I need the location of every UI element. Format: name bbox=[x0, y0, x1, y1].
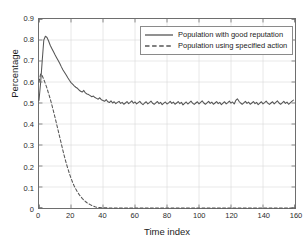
y-axis-title: Percentage bbox=[9, 14, 20, 134]
x-tick-label: 160 bbox=[290, 211, 303, 220]
y-tick-label: 0.8 bbox=[24, 35, 34, 44]
y-tick-label: 0.1 bbox=[24, 183, 34, 192]
y-tick-label: 0.2 bbox=[24, 162, 34, 171]
x-tick-label: 120 bbox=[225, 211, 238, 220]
legend-entry-specified-action: Population using specified action bbox=[144, 40, 289, 51]
legend-label-good-reputation: Population with good reputation bbox=[178, 30, 283, 40]
chart-figure: 00.10.20.30.40.50.60.70.80.9 02040608010… bbox=[0, 0, 307, 249]
y-tick-label: 0.6 bbox=[24, 77, 34, 86]
x-tick-label: 20 bbox=[66, 211, 74, 220]
y-tick-label: 0.5 bbox=[24, 98, 34, 107]
y-tick-label: 0.4 bbox=[24, 120, 34, 129]
x-axis-tick-labels: 020406080100120140160 bbox=[38, 211, 296, 223]
legend-sample-solid-line bbox=[144, 30, 174, 40]
y-tick-label: 0.3 bbox=[24, 141, 34, 150]
x-tick-label: 0 bbox=[36, 211, 40, 220]
x-tick-label: 80 bbox=[163, 211, 171, 220]
y-tick-label: 0.7 bbox=[24, 56, 34, 65]
chart-legend: Population with good reputation Populati… bbox=[140, 26, 293, 55]
x-tick-label: 40 bbox=[98, 211, 106, 220]
x-tick-label: 100 bbox=[193, 211, 206, 220]
y-tick-label: 0 bbox=[30, 205, 34, 214]
x-axis-title: Time index bbox=[38, 226, 296, 237]
legend-sample-dashed-line bbox=[144, 41, 174, 51]
x-tick-label: 140 bbox=[257, 211, 270, 220]
x-tick-label: 60 bbox=[131, 211, 139, 220]
legend-entry-good-reputation: Population with good reputation bbox=[144, 29, 289, 40]
legend-label-specified-action: Population using specified action bbox=[178, 41, 287, 51]
y-tick-label: 0.9 bbox=[24, 14, 34, 23]
